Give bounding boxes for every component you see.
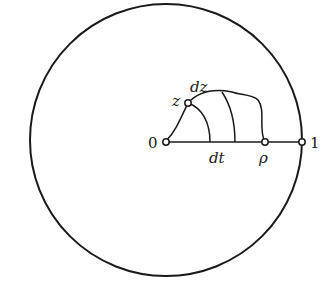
point-one bbox=[299, 139, 305, 145]
diagram-canvas: 0 z dz dt ρ 1 bbox=[0, 0, 326, 291]
arc-dz-to-axis-outer bbox=[222, 92, 235, 142]
label-dz: dz bbox=[190, 78, 208, 96]
point-z bbox=[185, 100, 191, 106]
point-origin bbox=[163, 139, 169, 145]
label-dt: dt bbox=[209, 149, 226, 167]
label-origin: 0 bbox=[148, 134, 158, 152]
arc-z-to-axis-inner bbox=[188, 103, 210, 142]
point-rho bbox=[262, 139, 268, 145]
label-rho: ρ bbox=[258, 149, 268, 167]
label-one: 1 bbox=[310, 134, 320, 152]
label-z: z bbox=[171, 92, 180, 110]
